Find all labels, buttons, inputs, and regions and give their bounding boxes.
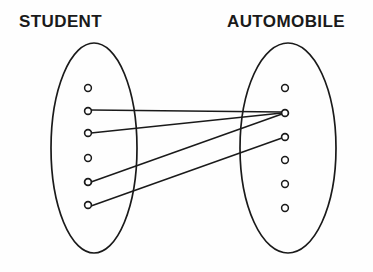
diagram-canvas: STUDENT AUTOMOBILE	[0, 0, 373, 272]
member-dot-a6	[282, 205, 289, 212]
member-dot-s1	[85, 85, 92, 92]
member-dot-a4	[282, 157, 289, 164]
set-ellipse-student	[51, 43, 137, 253]
mapping-lines	[91, 110, 282, 206]
member-dot-a2	[282, 110, 289, 117]
member-dot-s5	[85, 179, 92, 186]
set-label-student: STUDENT	[19, 13, 102, 30]
set-label-automobile: AUTOMOBILE	[227, 13, 345, 30]
member-dots-automobile	[282, 85, 289, 212]
member-dot-a1	[282, 85, 289, 92]
member-dot-s2	[85, 108, 92, 115]
member-dot-s6	[85, 202, 92, 209]
member-dot-a3	[282, 134, 289, 141]
mapping-line-s3-a2	[91, 113, 282, 133]
member-dot-a5	[282, 181, 289, 188]
set-mapping-diagram	[0, 0, 373, 272]
mapping-line-s2-a2	[91, 110, 282, 112]
member-dot-s4	[85, 155, 92, 162]
member-dot-s3	[85, 130, 92, 137]
member-dots-student	[85, 85, 92, 209]
